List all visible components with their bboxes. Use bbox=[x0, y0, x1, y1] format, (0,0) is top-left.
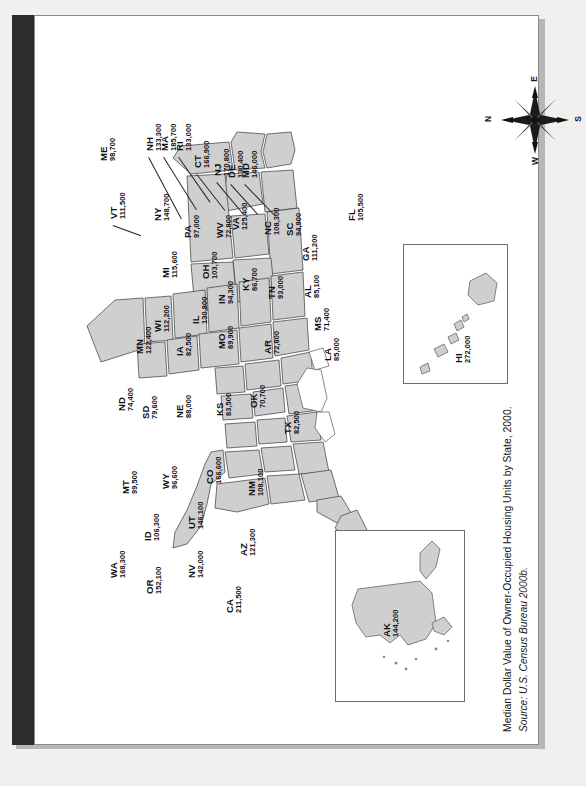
state-value-az: 121,300 bbox=[249, 529, 257, 556]
state-label-sd: SD79,600 bbox=[141, 396, 159, 419]
state-value-pa: 97,000 bbox=[193, 215, 201, 238]
state-label-ia: IA82,500 bbox=[175, 333, 193, 356]
state-label-wy: WY96,600 bbox=[161, 466, 179, 489]
state-label-ny: NY148,700 bbox=[153, 194, 171, 221]
state-label-oh: OH103,700 bbox=[201, 252, 219, 279]
state-value-wi: 112,200 bbox=[163, 305, 171, 332]
state-value-tx: 82,500 bbox=[293, 411, 301, 434]
state-value-me: 98,700 bbox=[109, 138, 117, 161]
state-label-me: ME98,700 bbox=[99, 138, 117, 161]
state-label-in: IN94,300 bbox=[217, 281, 235, 304]
state-label-ok: OK70,700 bbox=[249, 385, 267, 408]
state-label-id: ID106,300 bbox=[143, 514, 161, 541]
state-value-sd: 79,600 bbox=[151, 396, 159, 419]
state-value-al: 85,100 bbox=[313, 275, 321, 298]
compass-south-label: S bbox=[573, 116, 583, 122]
alaska-outline bbox=[336, 531, 464, 701]
state-label-co: CO166,600 bbox=[205, 457, 223, 484]
state-value-vt: 111,500 bbox=[119, 192, 127, 219]
state-label-wi: WI112,200 bbox=[153, 305, 171, 332]
state-value-ia: 82,500 bbox=[185, 333, 193, 356]
state-label-tn: TN93,000 bbox=[267, 276, 285, 299]
caption-source: Source: U.S. Census Bureau 2000b. bbox=[518, 567, 529, 732]
state-label-ky: KY86,700 bbox=[241, 268, 259, 291]
state-value-la: 85,000 bbox=[333, 338, 341, 361]
state-label-nd: ND74,400 bbox=[117, 388, 135, 411]
state-label-pa: PA97,000 bbox=[183, 215, 201, 238]
alaska-inset: AK 144,200 bbox=[335, 530, 465, 702]
state-value-id: 106,300 bbox=[153, 514, 161, 541]
state-value-ct: 166,900 bbox=[203, 141, 211, 168]
state-value-ny: 148,700 bbox=[163, 194, 171, 221]
sidebar-tab: U. S. DATA MAP 12.1 bbox=[12, 15, 36, 745]
state-label-al: AL85,100 bbox=[303, 275, 321, 298]
state-label-sc: SC94,900 bbox=[285, 213, 303, 236]
state-label-nv: NV142,000 bbox=[187, 551, 205, 578]
state-value-co: 166,600 bbox=[215, 457, 223, 484]
caption-wrapper: Median Dollar Value of Owner-Occupied Ho… bbox=[488, 16, 534, 746]
state-label-tx: TX82,500 bbox=[283, 411, 301, 434]
state-value-ga: 111,200 bbox=[311, 234, 319, 261]
state-value-tn: 93,000 bbox=[277, 276, 285, 299]
state-label-nc: NC108,300 bbox=[263, 208, 281, 235]
state-label-fl: FL105,500 bbox=[347, 194, 365, 221]
state-value-oh: 103,700 bbox=[211, 252, 219, 279]
state-value-ky: 86,700 bbox=[251, 268, 259, 291]
state-value-wy: 96,600 bbox=[171, 466, 179, 489]
state-value-ca: 211,500 bbox=[235, 586, 243, 613]
state-value-nc: 108,300 bbox=[273, 208, 281, 235]
state-label-mt: MT99,500 bbox=[121, 471, 139, 494]
state-value-md: 146,000 bbox=[251, 151, 259, 178]
state-value-fl: 105,500 bbox=[357, 194, 365, 221]
state-value-va: 125,400 bbox=[241, 203, 249, 230]
state-value-wa: 168,300 bbox=[119, 551, 127, 578]
state-value-or: 152,100 bbox=[155, 567, 163, 594]
state-label-va: VA125,400 bbox=[231, 203, 249, 230]
us-data-map[interactable]: ME98,700NH133,300MA185,700RI133,000CT166… bbox=[35, 16, 540, 746]
state-label-or: OR152,100 bbox=[145, 567, 163, 594]
state-value-il: 130,800 bbox=[201, 297, 209, 324]
state-value-sc: 94,900 bbox=[295, 213, 303, 236]
state-label-mo: MO89,900 bbox=[217, 326, 235, 349]
state-value-nm: 108,100 bbox=[257, 469, 265, 496]
state-value-ri: 133,000 bbox=[185, 124, 193, 151]
state-value-ne: 88,000 bbox=[185, 395, 193, 418]
state-label-wa: WA168,300 bbox=[109, 551, 127, 578]
state-value-ut: 146,100 bbox=[197, 502, 205, 529]
state-label-la: LA85,000 bbox=[323, 338, 341, 361]
state-value-mn: 122,400 bbox=[145, 327, 153, 354]
state-value-mi: 115,600 bbox=[171, 251, 179, 278]
figure-caption: Median Dollar Value of Owner-Occupied Ho… bbox=[488, 16, 534, 746]
state-label-mn: MN122,400 bbox=[135, 327, 153, 354]
state-label-ri: RI133,000 bbox=[175, 124, 193, 151]
state-label-il: IL130,800 bbox=[191, 297, 209, 324]
state-value-in: 94,300 bbox=[227, 281, 235, 304]
state-label-ar: AR72,800 bbox=[263, 331, 281, 354]
hawaii-value: 272,000 bbox=[464, 336, 472, 363]
state-label-ne: NE88,000 bbox=[175, 395, 193, 418]
state-label-vt: VT111,500 bbox=[109, 192, 127, 219]
figure-frame: U. S. DATA MAP 12.1 bbox=[12, 15, 541, 745]
state-label-ms: MS71,400 bbox=[313, 308, 331, 331]
state-label-ga: GA111,200 bbox=[301, 234, 319, 261]
state-value-ar: 72,800 bbox=[273, 331, 281, 354]
state-label-ca: CA211,500 bbox=[225, 586, 243, 613]
state-label-nm: NM108,100 bbox=[247, 469, 265, 496]
alaska-value: 144,200 bbox=[392, 610, 400, 637]
state-value-mo: 89,900 bbox=[227, 326, 235, 349]
state-label-ks: KS83,500 bbox=[215, 393, 233, 416]
state-value-mt: 99,500 bbox=[131, 471, 139, 494]
state-value-ms: 71,400 bbox=[323, 308, 331, 331]
state-value-nd: 74,400 bbox=[127, 388, 135, 411]
state-label-az: AZ121,300 bbox=[239, 529, 257, 556]
hawaii-label: HI 272,000 bbox=[454, 336, 472, 363]
caption-title: Median Dollar Value of Owner-Occupied Ho… bbox=[502, 406, 513, 732]
sidebar-title-wrapper: U. S. DATA MAP 12.1 bbox=[12, 15, 36, 745]
state-label-mi: MI115,600 bbox=[161, 251, 179, 278]
alaska-label: AK 144,200 bbox=[382, 610, 400, 637]
state-value-ks: 83,500 bbox=[225, 393, 233, 416]
state-value-nv: 142,000 bbox=[197, 551, 205, 578]
state-value-ok: 70,700 bbox=[259, 385, 267, 408]
state-label-ct: CT166,900 bbox=[193, 141, 211, 168]
figure-content-panel: ME98,700NH133,300MA185,700RI133,000CT166… bbox=[34, 15, 539, 745]
